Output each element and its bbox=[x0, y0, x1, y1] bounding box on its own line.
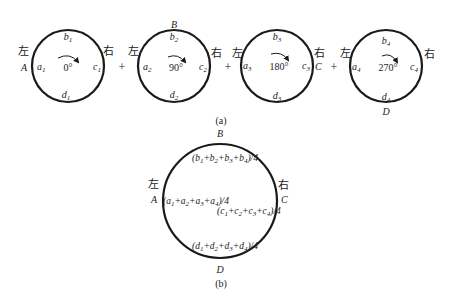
left-side-label: 左 bbox=[128, 45, 139, 58]
formula-b-average: (b1+b2+b3+b4)/4 bbox=[192, 153, 258, 165]
angle-label: 90° bbox=[169, 62, 183, 73]
point-a-label: A bbox=[150, 194, 158, 205]
label-c: c1 bbox=[93, 61, 101, 74]
right-side-label: 右 bbox=[211, 46, 222, 60]
left-side-label: 左 bbox=[18, 45, 29, 58]
circle-180-degrees: 180° b3 a3 c3 d3 左 右 C bbox=[232, 30, 325, 103]
formula-c-average: (c1+c2+c3+c4)/4 bbox=[217, 206, 281, 218]
point-d-label: D bbox=[215, 264, 224, 275]
point-c-label: C bbox=[315, 61, 322, 72]
caption-a: (a) bbox=[215, 115, 226, 127]
label-c: c2 bbox=[199, 61, 207, 74]
label-b: b4 bbox=[382, 35, 391, 48]
point-b-label: B bbox=[171, 19, 177, 30]
diagram-canvas: 0° b1 a1 c1 d1 左 右 A + 90° b2 a2 c2 d2 左… bbox=[0, 0, 452, 308]
angle-label: 270° bbox=[379, 62, 398, 73]
label-a: a1 bbox=[37, 61, 46, 74]
label-c: c4 bbox=[410, 61, 418, 74]
point-c-label: C bbox=[281, 194, 288, 205]
point-b-label: B bbox=[217, 128, 223, 139]
circle-0-degrees: 0° b1 a1 c1 d1 左 右 A bbox=[18, 30, 114, 102]
right-side-label: 右 bbox=[103, 44, 114, 58]
right-side-label: 右 bbox=[424, 47, 435, 61]
left-side-label: 左 bbox=[148, 178, 159, 191]
panel-b: B D A C 左 右 (b1+b2+b3+b4)/4 (a1+a2+a3+a4… bbox=[148, 128, 289, 290]
left-side-label: 左 bbox=[340, 47, 351, 60]
angle-label: 0° bbox=[64, 62, 73, 73]
label-c: c3 bbox=[302, 60, 310, 73]
rotation-arrow-icon bbox=[382, 55, 397, 62]
label-b: b1 bbox=[64, 31, 73, 44]
plus-sign: + bbox=[225, 60, 232, 74]
circle-270-degrees: 270° b4 a4 c4 d4 左 右 D bbox=[340, 30, 435, 117]
circle-90-degrees: 90° b2 a2 c2 d2 左 右 B bbox=[128, 19, 222, 102]
right-side-label: 右 bbox=[314, 46, 325, 60]
label-a: a2 bbox=[143, 61, 152, 74]
point-a-label: A bbox=[20, 62, 28, 73]
label-a: a4 bbox=[352, 61, 361, 74]
caption-b: (b) bbox=[215, 278, 227, 290]
right-side-label: 右 bbox=[278, 178, 289, 192]
label-b: b3 bbox=[273, 31, 282, 44]
label-d: d1 bbox=[62, 89, 71, 102]
point-d-label: D bbox=[381, 106, 390, 117]
label-b: b2 bbox=[170, 31, 179, 44]
label-a: a3 bbox=[243, 60, 252, 73]
angle-label: 180° bbox=[270, 61, 289, 72]
label-d: d2 bbox=[170, 89, 179, 102]
panel-a: 0° b1 a1 c1 d1 左 右 A + 90° b2 a2 c2 d2 左… bbox=[18, 19, 435, 127]
plus-sign: + bbox=[331, 60, 338, 74]
left-side-label: 左 bbox=[232, 47, 243, 60]
plus-sign: + bbox=[119, 60, 126, 74]
rotation-arrow-icon bbox=[271, 53, 288, 60]
